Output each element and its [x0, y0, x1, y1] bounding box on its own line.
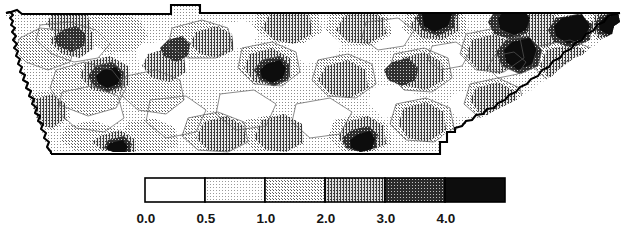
legend-label-2: 1.0	[257, 211, 276, 226]
legend-swatches	[145, 178, 505, 202]
legend-colorbar: 0.0 0.5 1.0 2.0 3.0 4.0	[0, 172, 643, 235]
legend-label-1: 0.5	[197, 211, 216, 226]
legend-swatch-4	[385, 178, 445, 202]
legend-label-5: 4.0	[437, 211, 456, 226]
legend-swatch-0	[145, 178, 205, 202]
legend-swatch-5	[445, 178, 505, 202]
legend-panel: 0.0 0.5 1.0 2.0 3.0 4.0	[0, 172, 643, 235]
legend-label-3: 2.0	[317, 211, 336, 226]
contour-shading-layer	[0, 0, 643, 172]
map-canvas	[0, 0, 643, 172]
legend-label-0: 0.0	[137, 211, 156, 226]
legend-label-4: 3.0	[377, 211, 396, 226]
legend-swatch-1	[205, 178, 265, 202]
legend-tick-labels: 0.0 0.5 1.0 2.0 3.0 4.0	[137, 211, 456, 226]
tennessee-contour-map	[0, 0, 643, 172]
legend-swatch-3	[325, 178, 385, 202]
contour-map-figure: 0.0 0.5 1.0 2.0 3.0 4.0	[0, 0, 643, 235]
legend-swatch-2	[265, 178, 325, 202]
